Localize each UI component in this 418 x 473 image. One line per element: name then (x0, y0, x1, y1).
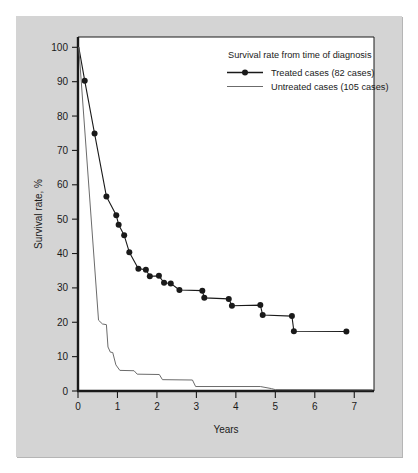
y-tick-label: 30 (57, 282, 69, 293)
data-point (229, 303, 235, 309)
data-point (147, 273, 153, 279)
x-tick-label: 1 (115, 401, 121, 412)
data-point (176, 287, 182, 293)
y-tick-label: 10 (57, 351, 69, 362)
data-point (226, 296, 232, 302)
data-point (199, 288, 205, 294)
data-point (126, 249, 132, 255)
legend-title: Survival rate from time of diagnosis (228, 50, 372, 60)
data-point (168, 280, 174, 286)
y-axis-title: Survival rate, % (33, 179, 44, 249)
data-point (113, 212, 119, 218)
legend-label-2: Untreated cases (105 cases) (271, 82, 388, 92)
x-tick-label: 3 (194, 401, 200, 412)
data-point (257, 302, 263, 308)
data-point (343, 329, 349, 335)
data-point (291, 328, 297, 334)
y-tick-label: 80 (57, 111, 69, 122)
data-point (82, 78, 88, 84)
x-tick-label: 6 (312, 401, 318, 412)
y-tick-label: 50 (57, 214, 69, 225)
y-tick-label: 100 (51, 42, 68, 53)
x-tick-label: 5 (273, 401, 279, 412)
x-tick-label: 4 (233, 401, 239, 412)
data-point (289, 313, 295, 319)
data-point (143, 267, 149, 273)
legend-label-1: Treated cases (82 cases) (271, 68, 374, 78)
data-point (161, 280, 167, 286)
data-point (92, 131, 98, 137)
x-tick-label: 0 (75, 401, 81, 412)
y-tick-label: 60 (57, 179, 69, 190)
x-tick-label: 7 (351, 401, 357, 412)
y-tick-label: 40 (57, 248, 69, 259)
x-tick-label: 2 (154, 401, 160, 412)
data-point (116, 222, 122, 228)
data-point (156, 273, 162, 279)
survival-chart: 010203040506070809010001234567YearsSurvi… (0, 0, 418, 473)
y-tick-label: 90 (57, 76, 69, 87)
y-tick-label: 0 (62, 386, 68, 397)
data-point (260, 312, 266, 318)
figure-container: 010203040506070809010001234567YearsSurvi… (0, 0, 418, 473)
legend-marker-dot (242, 70, 248, 76)
data-point (121, 232, 127, 238)
y-tick-label: 20 (57, 317, 69, 328)
data-point (135, 266, 141, 272)
y-tick-label: 70 (57, 145, 69, 156)
data-point (201, 295, 207, 301)
data-point (103, 193, 109, 199)
x-axis-title: Years (213, 424, 238, 435)
